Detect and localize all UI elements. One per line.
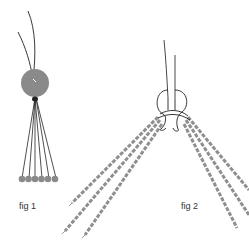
fig1-label: fig 1 <box>19 201 36 211</box>
fig1-illustration <box>18 11 58 182</box>
fig2-label: fig 2 <box>181 201 198 211</box>
diagram-canvas: fig 1 fig 2 <box>0 0 249 245</box>
diagram-svg <box>0 0 249 245</box>
fig2-illustration <box>62 40 249 238</box>
bead-icon <box>21 69 49 97</box>
